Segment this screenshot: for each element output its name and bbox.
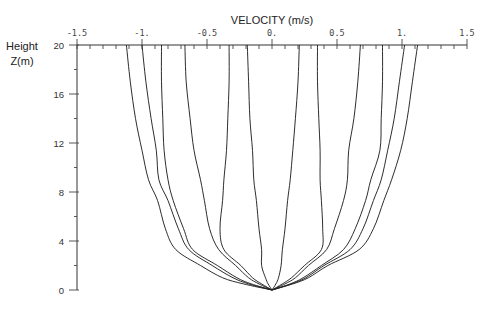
y-tick-label: 8 xyxy=(59,187,64,198)
axes xyxy=(77,45,467,290)
y-axis-title-line1: Height xyxy=(6,40,38,52)
x-tick-label: 0. xyxy=(267,28,277,38)
velocity-profile-profile-4 xyxy=(185,45,272,290)
y-axis-title-line2: Z(m) xyxy=(10,55,33,67)
tick-labels: -1.5-1.-0.50.0.51.1.5048121620 xyxy=(53,28,474,296)
ticks xyxy=(69,39,467,290)
y-tick-label: 20 xyxy=(53,40,64,51)
velocity-profile-profile-10 xyxy=(272,45,383,290)
velocity-profile-profile-1 xyxy=(126,45,272,290)
y-tick-label: 4 xyxy=(59,236,64,247)
y-tick-label: 0 xyxy=(59,285,64,296)
y-tick-label: 16 xyxy=(53,89,64,100)
velocity-profile-profile-3 xyxy=(161,45,272,290)
curves xyxy=(126,45,417,290)
x-tick-label: 1. xyxy=(397,28,407,38)
y-tick-label: 12 xyxy=(53,138,64,149)
velocity-profile-profile-5 xyxy=(220,45,272,290)
velocity-profile-profile-6 xyxy=(247,45,272,290)
x-axis-title: VELOCITY (m/s) xyxy=(231,14,313,26)
x-tick-label: -1.5 xyxy=(67,28,87,38)
x-tick-label: 1.5 xyxy=(459,28,474,38)
velocity-profile-chart: VELOCITY (m/s) Height Z(m) -1.5-1.-0.50.… xyxy=(0,0,492,311)
x-tick-label: -0.5 xyxy=(197,28,217,38)
x-tick-label: 0.5 xyxy=(329,28,344,38)
velocity-profile-profile-7 xyxy=(272,45,299,290)
velocity-profile-profile-11 xyxy=(272,45,405,290)
velocity-profile-profile-9 xyxy=(272,45,360,290)
x-tick-label: -1. xyxy=(134,28,149,38)
